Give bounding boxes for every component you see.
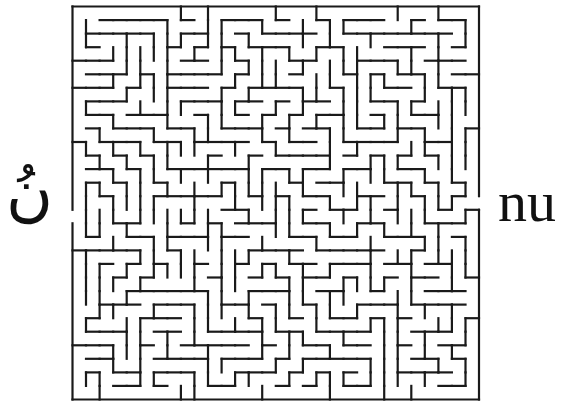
transliteration-label: nu [498,173,556,231]
maze-puzzle: نُ nu [0,0,576,412]
maze-grid[interactable] [0,0,576,412]
